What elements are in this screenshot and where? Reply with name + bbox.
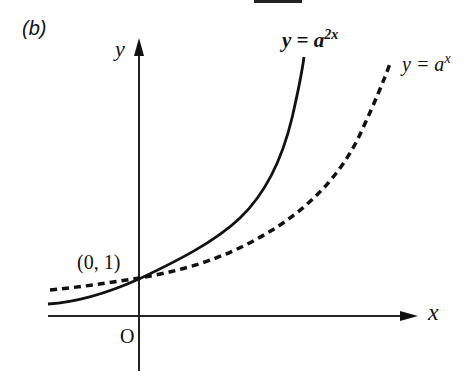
curve-a-2x-label: y = a2x xyxy=(282,28,338,51)
intercept-label: (0, 1) xyxy=(77,252,120,272)
panel-label: (b) xyxy=(22,18,46,38)
curve-a-2x-label-exp: 2x xyxy=(324,27,338,42)
curve-a-x-label-base: y = a xyxy=(402,53,444,75)
y-axis-label: y xyxy=(115,38,125,60)
curve-a-x-label: y = ax xyxy=(402,52,451,74)
plot-area xyxy=(0,0,471,371)
curve-a-2x-label-base: y = a xyxy=(282,28,324,52)
y-axis-arrow-icon xyxy=(134,38,144,56)
figure-canvas: (b) y x O (0, 1) y = a2x y = ax xyxy=(0,0,471,371)
curve-a-x-label-exp: x xyxy=(444,51,450,66)
x-axis-label: x xyxy=(428,300,439,324)
origin-label: O xyxy=(120,326,134,346)
x-axis-arrow-icon xyxy=(400,311,418,321)
